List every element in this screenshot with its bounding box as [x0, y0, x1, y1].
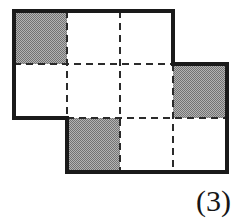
figure-container: (3) [0, 0, 239, 218]
cell-r3c2-shaded [67, 118, 120, 172]
figure-caption: (3) [196, 186, 231, 216]
cell-r1c1-shaded [14, 11, 67, 64]
cell-r2c4-shaded [173, 64, 227, 118]
